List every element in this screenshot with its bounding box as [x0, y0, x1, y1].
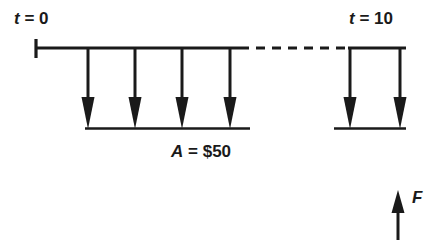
- payment-arrow-2: [129, 48, 142, 129]
- label-end-time-value: 10: [374, 9, 393, 28]
- label-start-time-operator: =: [24, 9, 34, 28]
- label-start-time-value: 0: [39, 9, 48, 28]
- label-start-time: t = 0: [14, 10, 49, 27]
- label-end-time: t = 10: [349, 10, 393, 27]
- cash-flow-graphic: [0, 0, 431, 240]
- label-future-value-variable: F: [412, 188, 422, 207]
- payment-arrow-group: [82, 48, 407, 129]
- payment-arrow-3: [176, 48, 189, 129]
- payment-arrow-4: [224, 48, 237, 129]
- label-annuity-value: $50: [203, 142, 231, 161]
- label-annuity-variable: A: [171, 142, 183, 161]
- payment-arrow-1: [82, 48, 95, 129]
- label-end-time-operator: =: [359, 9, 369, 28]
- payment-arrow-6: [394, 48, 407, 129]
- label-annuity-amount: A = $50: [171, 143, 231, 160]
- cash-flow-diagram: t = 0 t = 10 A = $50 F: [0, 0, 431, 240]
- label-future-value: F: [412, 189, 422, 206]
- future-value-arrow: [392, 190, 405, 240]
- label-annuity-operator: =: [188, 142, 198, 161]
- payment-arrow-5: [344, 48, 357, 129]
